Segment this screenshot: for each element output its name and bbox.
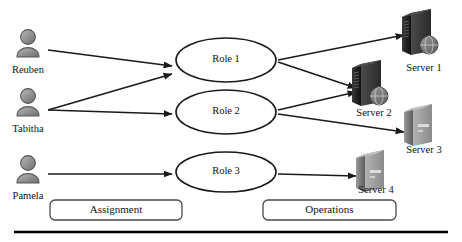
user-avatar-icon <box>21 89 36 104</box>
server-tower-dark-face-icon <box>402 13 411 55</box>
server-label-server4: Server 4 <box>344 184 408 195</box>
edge-role1-to-server2 <box>278 62 356 88</box>
role-label-role2: Role 2 <box>176 105 276 116</box>
server-drive-bay-icon <box>370 170 381 173</box>
server-icon-server2 <box>352 60 388 106</box>
avatar-tabitha <box>17 89 39 116</box>
user-avatar-body-icon <box>17 48 39 57</box>
avatar-reuben <box>17 30 39 57</box>
operation-edges <box>278 35 404 176</box>
edge-role1-to-server1 <box>278 35 404 60</box>
server-label-server3: Server 3 <box>392 144 456 155</box>
server-label-server1: Server 1 <box>392 62 456 73</box>
edge-role3-to-server4 <box>278 174 356 176</box>
server-drive-bay-icon <box>418 124 429 127</box>
user-avatar-icon <box>21 30 36 45</box>
server-icon-server3 <box>404 104 432 146</box>
person-label-reuben: Reuben <box>0 64 60 75</box>
user-avatar-body-icon <box>17 174 39 183</box>
edge-tabitha-to-role2 <box>48 110 172 114</box>
server-power-led-icon <box>418 130 423 132</box>
rbac-diagram: Role 1 Role 2 Role 3 Reuben Tabitha Pame… <box>0 0 462 242</box>
role-label-role1: Role 1 <box>176 53 276 64</box>
user-avatar-icon <box>21 156 36 171</box>
group-label-operations: Operations <box>263 203 396 215</box>
server-power-led-icon <box>370 176 375 178</box>
person-label-pamela: Pamela <box>0 190 60 201</box>
edge-reuben-to-role1 <box>48 50 172 66</box>
avatar-pamela <box>17 156 39 183</box>
user-avatar-body-icon <box>17 107 39 116</box>
assignment-edges <box>48 50 172 174</box>
person-avatars <box>17 30 39 183</box>
group-label-assignment: Assignment <box>50 203 182 215</box>
server-icon-server1 <box>402 9 438 55</box>
server-tower-dark-face-icon <box>352 64 361 106</box>
server-label-server2: Server 2 <box>342 107 406 118</box>
edge-tabitha-to-role1 <box>48 74 172 110</box>
role-label-role3: Role 3 <box>176 165 276 176</box>
person-label-tabitha: Tabitha <box>0 123 60 134</box>
